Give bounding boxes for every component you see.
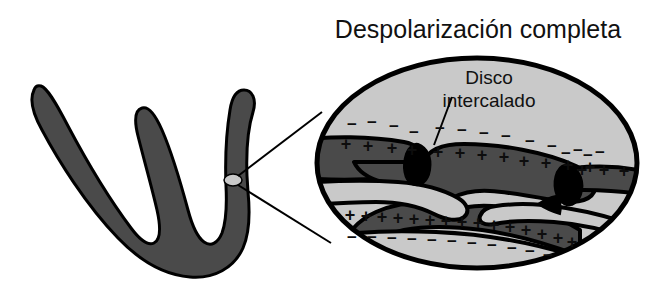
minus-charge-icon: − <box>387 229 397 248</box>
branching-cardiac-muscle-fiber <box>32 86 254 277</box>
plus-charge-icon: + <box>407 140 418 160</box>
plus-charge-icon: + <box>361 206 372 226</box>
plus-charge-icon: + <box>409 209 420 229</box>
plus-charge-icon: + <box>377 207 388 227</box>
plus-charge-icon: + <box>433 142 444 162</box>
plus-charge-icon: + <box>599 160 610 180</box>
plus-charge-icon: + <box>489 215 500 235</box>
plus-charge-icon: + <box>567 232 578 252</box>
plus-charge-icon: + <box>563 155 574 175</box>
plus-charge-icon: + <box>441 211 452 231</box>
positive-charges-right-cell: +++ <box>577 160 630 181</box>
minus-charge-icon: − <box>501 127 511 146</box>
minus-charge-icon: − <box>407 230 417 249</box>
minus-charge-icon: − <box>487 236 497 255</box>
plus-charge-icon: + <box>387 138 398 158</box>
minus-charge-icon: − <box>427 231 437 250</box>
plus-charge-icon: + <box>537 224 548 244</box>
minus-charge-icon: − <box>507 239 517 258</box>
minus-charge-icon: − <box>479 124 489 143</box>
minus-charge-icon: − <box>347 228 357 247</box>
inset-label-line-2: intercalado <box>443 90 536 111</box>
minus-charge-icon: − <box>543 246 553 265</box>
plus-charge-icon: + <box>577 160 588 180</box>
minus-charge-icon: − <box>435 119 445 138</box>
minus-charge-icon: − <box>367 228 377 247</box>
minus-charge-icon: − <box>525 242 535 261</box>
minus-charge-icon: − <box>447 232 457 251</box>
plus-charge-icon: + <box>455 143 466 163</box>
plus-charge-icon: + <box>519 151 530 171</box>
diagram-title: Despolarización completa <box>335 15 621 43</box>
plus-charge-icon: + <box>341 134 352 154</box>
diagram-canvas: Despolarización completa <box>0 0 655 293</box>
plus-charge-icon: + <box>473 213 484 233</box>
plus-charge-icon: + <box>393 208 404 228</box>
minus-charge-icon: − <box>347 115 357 134</box>
plus-charge-icon: + <box>363 136 374 156</box>
plus-charge-icon: + <box>477 145 488 165</box>
minus-charge-icon: − <box>367 113 377 132</box>
minus-charge-icon: − <box>525 132 535 151</box>
leader-line-lower <box>238 185 331 243</box>
minus-charge-icon: − <box>389 117 399 136</box>
minus-charge-icon: − <box>457 121 467 140</box>
inset-label-line-1: Disco <box>465 67 513 88</box>
plus-charge-icon: + <box>505 217 516 237</box>
plus-charge-icon: + <box>619 161 630 181</box>
cardiac-fiber-group <box>32 86 254 277</box>
plus-charge-icon: + <box>521 220 532 240</box>
plus-charge-icon: + <box>553 228 564 248</box>
plus-charge-icon: + <box>499 147 510 167</box>
plus-charge-icon: + <box>345 205 356 225</box>
minus-charge-icon: − <box>467 234 477 253</box>
plus-charge-icon: + <box>425 210 436 230</box>
plus-charge-icon: + <box>541 153 552 173</box>
minus-charge-icon: − <box>573 141 583 160</box>
plus-charge-icon: + <box>457 212 468 232</box>
figure-root: Despolarización completa <box>0 0 655 293</box>
